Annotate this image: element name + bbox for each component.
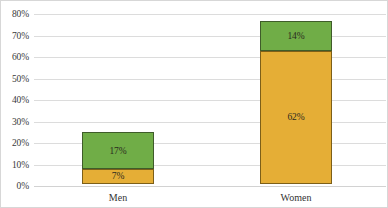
- bar-label-women-green: 14%: [287, 31, 304, 41]
- plot-area: 17% 7% 14% 62%: [1, 1, 387, 207]
- bar-segment-men-orange[interactable]: 7%: [82, 169, 154, 184]
- stacked-bar-chart: 80% 70% 60% 50% 40% 30% 20% 10% 0% 17% 7…: [0, 0, 388, 208]
- x-tick-women: Women: [260, 192, 332, 203]
- bar-segment-women-green[interactable]: 14%: [260, 21, 332, 51]
- bar-group-women[interactable]: 14% 62%: [260, 21, 332, 184]
- bar-group-men[interactable]: 17% 7%: [82, 132, 154, 184]
- bar-label-men-orange: 7%: [112, 171, 124, 181]
- bar-segment-men-green[interactable]: 17%: [82, 132, 154, 169]
- bar-segment-women-orange[interactable]: 62%: [260, 51, 332, 184]
- x-tick-men: Men: [82, 192, 154, 203]
- bar-label-men-green: 17%: [109, 146, 126, 156]
- bar-label-women-orange: 62%: [287, 112, 304, 122]
